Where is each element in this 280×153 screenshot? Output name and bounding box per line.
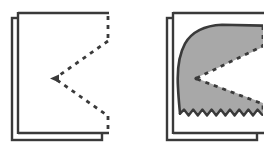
- panel-left: [12, 12, 109, 140]
- notch-vertex-marker-icon: [194, 76, 198, 80]
- panel-right: [167, 12, 264, 140]
- figure-container: Two-panel region diagram on stacked shee…: [0, 0, 280, 153]
- figure-illustration: [0, 0, 280, 153]
